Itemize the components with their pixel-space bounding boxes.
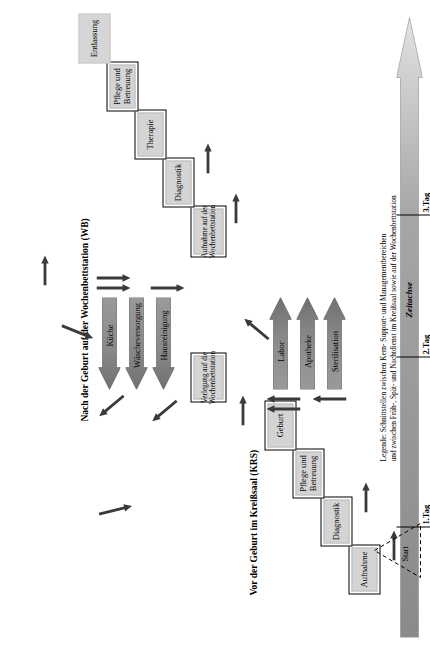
support-arrow-apotheke: Apotheke: [296, 297, 318, 389]
day-separator-3: [396, 214, 430, 215]
process-box-wb-diagnostik-label: Diagnostik: [165, 160, 191, 204]
interface-arrow-up-3: [312, 394, 346, 403]
process-box-krs-diagnostik: Diagnostik: [320, 496, 352, 546]
process-box-wb-aufnahme-label: Aufnahme auf der Wochenbettstation: [193, 208, 223, 254]
support-arrow-labor: Labor: [269, 297, 291, 389]
process-box-wb-entlassung-label: Entlassung: [78, 13, 110, 63]
interface-arrow-diagonal-1: [241, 315, 271, 342]
support-arrow-sterilisation: Sterilisation: [323, 297, 345, 389]
interface-arrow-right-wb-3: [40, 255, 49, 285]
service-arrow-hausreinigung: Hausreinigung: [152, 297, 174, 389]
legend-line-2: und zwischen Früh-, Spät- und Nachtdiens…: [388, 195, 398, 461]
interface-arrow-right-krs-3: [238, 395, 247, 425]
interface-arrow-down-2: [96, 273, 130, 282]
interface-arrow-diagonal-2: [149, 397, 179, 424]
day-separator-2: [396, 356, 430, 357]
interface-arrow-right-wb-1: [231, 193, 240, 223]
section-title-krs: Vor der Geburt im Kreißsaal (KRS): [248, 449, 258, 595]
start-label: Start: [400, 546, 409, 561]
interface-arrow-down-1: [96, 283, 130, 292]
time-axis-label: Zeitachse: [403, 282, 413, 318]
process-box-krs-pflege-betreuung: Pflege und Betreuung: [292, 448, 324, 498]
process-box-krs-diagnostik-label: Diagnostik: [323, 499, 349, 543]
interface-arrow-down-3: [150, 283, 184, 292]
interface-arrow-diagonal-3: [96, 392, 126, 419]
interface-arrow-right-krs-2: [361, 482, 370, 512]
day-tick-3: 3.Tag: [420, 192, 430, 212]
legend: Legende: Schnittstellen zwischen Kern- S…: [378, 195, 398, 461]
process-box-wb-pflege-betreuung-label: Pflege und Betreuung: [109, 64, 135, 108]
day-tick-2: 2.Tag: [420, 334, 430, 354]
section-title-wb: Nach der Geburt auf der Wochenbettstatio…: [79, 218, 89, 421]
process-box-wb-diagnostik: Diagnostik: [162, 157, 194, 207]
interface-arrow-right-wb-2: [203, 143, 212, 173]
service-arrow-kueche: Küche: [98, 297, 120, 389]
start-marker: Start: [372, 521, 422, 579]
interface-arrow-up-1: [266, 394, 300, 403]
process-box-verlegung-wochenbettstation: Verlegung auf die Wochenbettstation: [190, 352, 226, 402]
interface-arrow-diagonal-4: [97, 501, 132, 518]
process-box-wb-therapie: Therapie: [134, 109, 166, 159]
service-arrow-waescheversorgung: Wäscheversorgung: [125, 297, 147, 389]
interface-arrow-up-2: [266, 404, 300, 413]
process-box-wb-entlassung: Entlassung: [78, 13, 110, 63]
process-box-verlegung-label: Verlegung auf die Wochenbettstation: [193, 355, 223, 399]
process-box-wb-pflege-betreuung: Pflege und Betreuung: [106, 61, 138, 111]
process-box-wb-aufnahme: Aufnahme auf der Wochenbettstation: [190, 205, 226, 257]
legend-line-1: Legende: Schnittstellen zwischen Kern- S…: [378, 195, 388, 461]
process-box-wb-therapie-label: Therapie: [137, 112, 163, 156]
process-box-krs-pflege-betreuung-label: Pflege und Betreuung: [295, 451, 321, 495]
